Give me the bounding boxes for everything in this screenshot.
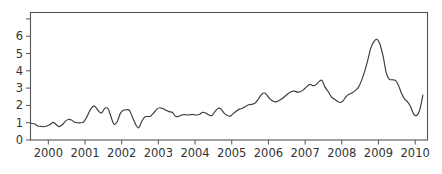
x-tick-label-2003: 2003	[144, 146, 173, 160]
x-tick-label-2010: 2010	[401, 146, 430, 160]
plot-frame	[31, 13, 428, 141]
x-tick-label-2000: 2000	[34, 146, 63, 160]
x-tick-label-2006: 2006	[254, 146, 283, 160]
series-line-1	[31, 39, 422, 128]
y-tick-label-5: 5	[16, 47, 23, 61]
y-tick-label-4: 4	[16, 64, 23, 78]
x-tick-label-2008: 2008	[327, 146, 356, 160]
x-axis-ticks	[48, 140, 415, 145]
y-tick-label-3: 3	[16, 81, 23, 95]
x-tick-label-2002: 2002	[107, 146, 136, 160]
x-axis-label-group: 2000200120022003200420052006200720082009…	[34, 146, 430, 160]
y-tick-label-2: 2	[16, 98, 23, 112]
x-tick-label-2001: 2001	[70, 146, 99, 160]
x-tick-label-2005: 2005	[217, 146, 246, 160]
y-tick-label-6: 6	[16, 29, 23, 43]
y-tick-label-0: 0	[16, 133, 23, 147]
y-axis-label-group: 0 1 2 3 4 5 6	[16, 29, 23, 147]
x-tick-label-2007: 2007	[290, 146, 319, 160]
x-tick-label-2004: 2004	[180, 146, 209, 160]
chart-canvas: 0 1 2 3 4 5 6 20002001200220032004200520…	[0, 0, 442, 174]
chart-figure: 0 1 2 3 4 5 6 20002001200220032004200520…	[0, 0, 442, 174]
y-axis-ticks	[26, 19, 31, 140]
y-tick-label-1: 1	[16, 116, 23, 130]
x-tick-label-2009: 2009	[364, 146, 393, 160]
